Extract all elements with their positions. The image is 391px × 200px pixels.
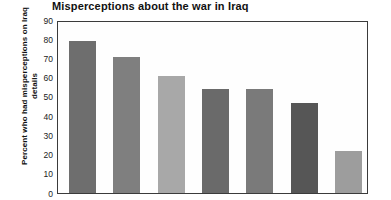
y-axis-tick-label: 30 bbox=[33, 132, 53, 141]
y-axis-tick-label: 60 bbox=[33, 74, 53, 83]
y-axis-tick-label: 0 bbox=[33, 190, 53, 199]
y-axis-tick-label: 10 bbox=[33, 170, 53, 179]
bar bbox=[202, 89, 229, 193]
bar bbox=[291, 103, 318, 193]
bar bbox=[113, 57, 140, 193]
y-axis-tick-label: 40 bbox=[33, 113, 53, 122]
y-axis-tick-labels: 9080706050403020100 bbox=[33, 0, 53, 200]
y-axis-tick-label: 50 bbox=[33, 93, 53, 102]
chart-title: Misperceptions about the war in Iraq bbox=[52, 0, 352, 13]
bar bbox=[335, 151, 362, 193]
chart-figure: Misperceptions about the war in Iraq Per… bbox=[0, 0, 391, 200]
bar bbox=[246, 89, 273, 193]
y-axis-tick-label: 80 bbox=[33, 36, 53, 45]
bar bbox=[158, 76, 185, 193]
y-axis-tick-label: 20 bbox=[33, 151, 53, 160]
bar-series bbox=[58, 22, 367, 193]
bar bbox=[69, 41, 96, 193]
y-axis-tick-label: 90 bbox=[33, 17, 53, 26]
plot-area bbox=[57, 21, 368, 194]
y-axis-tick-label: 70 bbox=[33, 55, 53, 64]
